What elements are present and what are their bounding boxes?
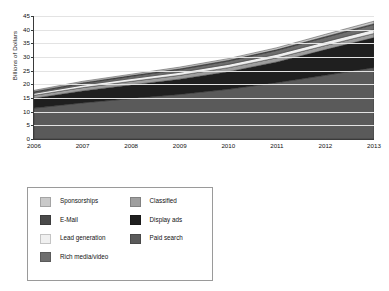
gridline [34, 125, 374, 126]
gridline [34, 112, 374, 113]
plot-area: 0510152025303540452006200720082009201020… [33, 16, 374, 140]
legend-item-label: Classified [150, 198, 177, 204]
gridline [34, 16, 374, 17]
legend-swatch-icon [130, 215, 141, 225]
gridline [34, 57, 374, 58]
legend-swatch-icon [40, 197, 51, 207]
x-tick-label: 2013 [367, 143, 381, 149]
legend-item-label: E-Mail [60, 217, 78, 223]
legend-swatch-icon [40, 215, 51, 225]
y-tick-label: 45 [23, 13, 30, 19]
legend-item[interactable]: Classified [130, 196, 206, 207]
legend-item[interactable]: E-Mail [40, 215, 130, 226]
x-tick-label: 2011 [270, 143, 283, 149]
chart-legend: SponsorshipsE-MailLead generationRich me… [27, 187, 213, 281]
legend-column-left: SponsorshipsE-MailLead generationRich me… [40, 196, 130, 274]
legend-column-right: ClassifiedDisplay adsPaid search [130, 196, 206, 274]
y-tick-mark [31, 57, 34, 58]
y-tick-label: 30 [23, 54, 30, 60]
legend-item[interactable]: Display ads [130, 215, 206, 226]
y-tick-label: 5 [27, 122, 30, 128]
gridline [34, 43, 374, 44]
legend-swatch-icon [130, 234, 141, 244]
gridline [34, 30, 374, 31]
y-tick-label: 35 [23, 40, 30, 46]
legend-item-label: Lead generation [60, 235, 106, 241]
legend-item[interactable]: Lead generation [40, 233, 130, 244]
y-tick-label: 10 [23, 109, 30, 115]
y-tick-mark [31, 71, 34, 72]
x-tick-label: 2007 [76, 143, 90, 149]
legend-swatch-icon [130, 197, 141, 207]
y-tick-mark [31, 125, 34, 126]
legend-item-label: Display ads [150, 217, 183, 223]
y-tick-label: 25 [23, 68, 30, 74]
y-tick-mark [31, 98, 34, 99]
legend-swatch-icon [40, 252, 51, 262]
y-axis-title: Billions of Dollars [11, 6, 18, 106]
y-tick-label: 40 [23, 27, 30, 33]
x-tick-label: 2006 [27, 143, 41, 149]
y-tick-mark [31, 84, 34, 85]
area-series-svg [34, 16, 374, 139]
stacked-area-chart: Billions of Dollars 05101520253035404520… [0, 0, 389, 168]
gridline [34, 84, 374, 85]
x-tick-label: 2008 [124, 143, 138, 149]
y-tick-mark [31, 43, 34, 44]
y-tick-label: 20 [23, 81, 30, 87]
y-tick-mark [31, 16, 34, 17]
x-tick-label: 2012 [319, 143, 333, 149]
legend-swatch-icon [40, 234, 51, 244]
x-tick-label: 2010 [221, 143, 235, 149]
gridline [34, 71, 374, 72]
legend-item[interactable]: Rich media/video [40, 252, 130, 263]
legend-item[interactable]: Sponsorships [40, 196, 130, 207]
legend-item-label: Rich media/video [60, 254, 108, 260]
legend-item[interactable]: Paid search [130, 233, 206, 244]
y-tick-mark [31, 139, 34, 140]
legend-item-label: Sponsorships [60, 198, 98, 204]
gridline [34, 98, 374, 99]
legend-item-label: Paid search [150, 235, 183, 241]
y-tick-mark [31, 30, 34, 31]
y-tick-mark [31, 112, 34, 113]
chart-page: Billions of Dollars 05101520253035404520… [0, 0, 389, 291]
y-tick-label: 15 [23, 95, 30, 101]
x-tick-label: 2009 [173, 143, 187, 149]
